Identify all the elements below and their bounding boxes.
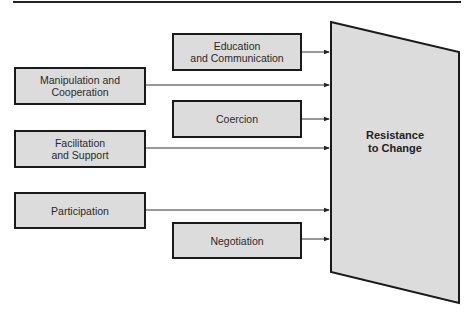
box-facilitation-and-support: Facilitation and Support — [14, 130, 146, 168]
resistance-to-change-shape — [331, 22, 459, 303]
box-education-and-communication: Education and Communication — [172, 33, 302, 71]
box-label-line2: and Communication — [190, 52, 283, 64]
box-label-line2: Cooperation — [51, 86, 108, 98]
box-label-line1: Education — [214, 40, 261, 52]
resistance-to-change-label: Resistance to Change — [345, 129, 445, 155]
box-label-line1: Negotiation — [210, 235, 263, 247]
box-label-line2: and Support — [51, 149, 108, 161]
box-label-line1: Facilitation — [55, 137, 105, 149]
target-label-line2: to Change — [345, 142, 445, 155]
box-participation: Participation — [14, 192, 146, 229]
box-label-line1: Coercion — [216, 113, 258, 125]
box-coercion: Coercion — [172, 100, 302, 138]
box-manipulation-and-cooperation: Manipulation and Cooperation — [14, 67, 146, 105]
box-label-line1: Manipulation and — [40, 74, 120, 86]
target-label-line1: Resistance — [345, 129, 445, 142]
box-negotiation: Negotiation — [172, 222, 302, 259]
box-label-line1: Participation — [51, 205, 109, 217]
